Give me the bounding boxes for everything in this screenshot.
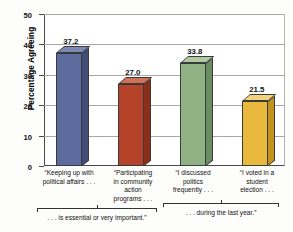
bar-participating-in-community-action-programs[interactable]: 27.0 [118,84,144,166]
bar-i-discussed-politics-frequently[interactable]: 33.8 [180,63,206,166]
bar-front-face-2 [118,84,144,166]
bar-side-face-4 [268,95,275,166]
bar-side-face-3 [206,58,213,166]
bar-front-face-4 [242,101,268,166]
tick-mark-20: 20 [39,105,44,106]
y-tick-label-50: 50 [24,11,32,20]
category-label-4-line3: election . . . [226,186,288,195]
bar-value-label-2: 27.0 [125,68,140,77]
bar-value-label-4: 21.5 [249,85,264,94]
category-label-2: “Participating in community action progr… [102,169,164,203]
category-label-3-line1: “I discussed [162,169,224,178]
tick-mark-50: 50 [39,14,44,15]
category-label-1-line1: “Keeping up with [30,169,108,178]
category-label-3-line3: frequently . . . [162,186,224,195]
category-label-3: “I discussed politics frequently . . . [162,169,224,195]
category-label-1-line2: political affairs . . . [30,178,108,187]
bracket-right-text: . . . during the last year.” [163,209,279,217]
y-tick-label-40: 40 [24,41,32,50]
bracket-left-text: . . . is essential or very important.” [28,214,166,222]
category-label-4-line2: student [226,178,288,187]
bar-front-face-3 [180,63,206,166]
tick-mark-30: 30 [39,75,44,76]
bar-side-face-2 [144,78,151,166]
bracket-left-cap-right [156,208,157,212]
bracket-right-nub [221,200,222,203]
gridline-50 [44,14,285,15]
bracket-right-line [163,203,279,204]
category-label-3-line2: politics [162,178,224,187]
category-label-2-line4: programs . . . [102,195,164,204]
plot-area: 50 40 30 20 10 0 37.2 [44,14,285,166]
bar-value-label-1: 37.2 [63,37,78,46]
category-label-2-line3: action [102,186,164,195]
bracket-left-line [37,208,157,209]
tick-mark-40: 40 [39,44,44,45]
bar-chart: Percentage Agreeing 50 40 30 20 10 0 [0,0,293,232]
bracket-left-cap-left [37,208,38,212]
bracket-left-nub [97,205,98,208]
tick-mark-10: 10 [39,136,44,137]
y-tick-label-10: 10 [24,132,32,141]
bar-i-voted-in-a-student-election[interactable]: 21.5 [242,101,268,166]
category-label-4-line1: “I voted in a [226,169,288,178]
bar-side-face-1 [82,47,89,166]
bar-keeping-up-with-political-affairs[interactable]: 37.2 [56,53,82,166]
bracket-right-cap-right [278,203,279,207]
bar-front-face-1 [56,53,82,166]
tick-mark-0: 0 [39,166,44,167]
category-label-2-line1: “Participating [102,169,164,178]
bracket-right-cap-left [163,203,164,207]
category-label-2-line2: in community [102,178,164,187]
category-label-1: “Keeping up with political affairs . . . [30,169,108,186]
y-tick-label-30: 30 [24,71,32,80]
category-label-4: “I voted in a student election . . . [226,169,288,195]
y-tick-label-20: 20 [24,102,32,111]
bar-value-label-3: 33.8 [187,47,202,56]
